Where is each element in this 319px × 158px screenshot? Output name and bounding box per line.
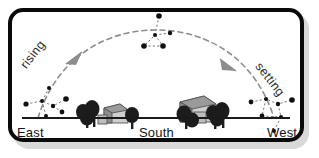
star bbox=[60, 110, 65, 115]
star bbox=[141, 43, 147, 49]
star bbox=[23, 101, 28, 106]
star bbox=[276, 102, 280, 106]
star bbox=[160, 43, 166, 49]
star bbox=[289, 97, 295, 103]
star bbox=[168, 31, 172, 35]
sky-path-diagram: rising setting East South West bbox=[0, 0, 319, 158]
star bbox=[63, 96, 69, 102]
apparent-path-arc bbox=[38, 30, 274, 118]
setting-arrow-icon bbox=[220, 59, 236, 71]
house-right bbox=[177, 96, 230, 129]
star bbox=[249, 100, 254, 105]
star bbox=[264, 97, 268, 101]
tree-cluster-left bbox=[76, 100, 100, 128]
cardinal-label-west: West bbox=[267, 125, 297, 140]
constellation-rising bbox=[23, 86, 68, 118]
rising-arrow-icon bbox=[66, 52, 82, 65]
star bbox=[51, 104, 55, 108]
cardinal-label-east: East bbox=[17, 125, 44, 140]
star bbox=[153, 33, 157, 37]
star bbox=[40, 99, 44, 103]
house-left bbox=[76, 100, 139, 129]
cardinal-label-south: South bbox=[139, 125, 174, 140]
star bbox=[156, 13, 162, 19]
star bbox=[47, 86, 51, 90]
house-left-body bbox=[98, 104, 128, 124]
